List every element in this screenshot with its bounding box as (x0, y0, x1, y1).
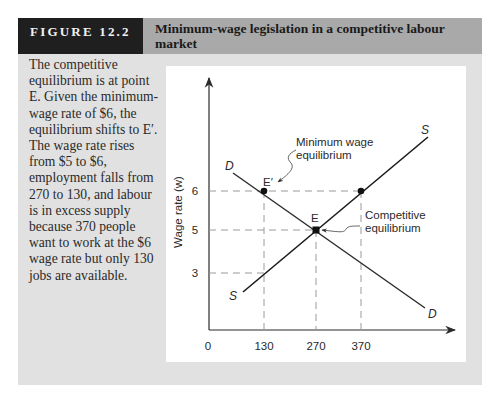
annotation-competitive-line1: Competitive (365, 209, 426, 221)
annotation-min-wage-line2: equilibrium (296, 149, 352, 161)
label-d-bottom: D (428, 307, 437, 321)
y-tick-5: 5 (192, 224, 198, 236)
x-tick-370: 370 (351, 340, 370, 352)
label-s-bottom: S (229, 289, 237, 303)
label-e: E (311, 212, 319, 224)
figure-label: FIGURE 12.2 (18, 18, 143, 54)
label-e-prime: E′ (263, 176, 273, 188)
figure-title: Minimum-wage legislation in a competitiv… (155, 21, 475, 51)
label-d-top: D (225, 159, 234, 173)
x-tick-270: 270 (306, 340, 325, 352)
chart-panel: E′ E D D S S Minimum wage equilibrium Co… (166, 66, 466, 362)
annotation-competitive-line2: equilibrium (365, 222, 421, 234)
chart-svg: E′ E D D S S Minimum wage equilibrium Co… (166, 66, 466, 362)
x-tick-130: 130 (254, 340, 273, 352)
x-tick-0: 0 (205, 340, 211, 352)
y-tick-6: 6 (192, 185, 198, 197)
point-supply-at-6 (358, 188, 365, 195)
competitive-leader (322, 226, 360, 232)
point-e (313, 227, 320, 234)
figure-title-bar: Minimum-wage legislation in a competitiv… (143, 18, 482, 54)
y-axis-label: Wage rate (w) (172, 176, 184, 248)
point-e-prime (261, 188, 268, 195)
y-tick-3: 3 (192, 267, 198, 279)
min-wage-leader (278, 150, 296, 182)
figure-caption: The competitive equilibrium is at point … (29, 57, 164, 284)
annotation-min-wage-line1: Minimum wage (296, 136, 373, 148)
label-s-top: S (421, 123, 429, 137)
